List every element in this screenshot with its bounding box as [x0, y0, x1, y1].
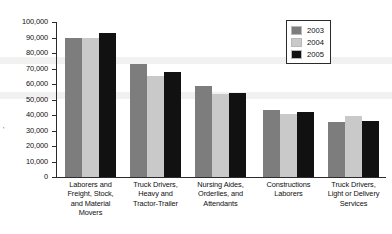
bar: [164, 72, 181, 177]
x-axis-category-label: Nursing Aides,Orderlies, andAttendants: [185, 180, 257, 208]
x-axis-label-line: Services: [318, 199, 390, 208]
x-axis-line: [56, 177, 386, 178]
y-axis-tick-label: 60,000: [26, 80, 48, 88]
scan-artifact: ': [3, 126, 4, 133]
bar: [229, 93, 246, 177]
x-axis-label-line: and Material: [55, 199, 127, 208]
legend-label: 2004: [307, 38, 324, 47]
x-axis-label-line: Truck Drivers,: [120, 180, 192, 189]
bar-group: [195, 22, 246, 177]
y-axis-tick-label: 80,000: [26, 49, 48, 57]
bar: [328, 122, 345, 177]
x-axis-label-line: Laborers: [253, 189, 325, 198]
y-axis-tick-label: 10,000: [26, 158, 48, 166]
bar: [212, 94, 229, 177]
x-axis-label-line: Light or Delivery: [318, 189, 390, 198]
bar: [297, 112, 314, 177]
y-axis-tick-label: 30,000: [26, 127, 48, 135]
x-axis-label-line: Freight, Stock,: [55, 189, 127, 198]
x-axis-label-line: Truck Drivers,: [318, 180, 390, 189]
y-axis-tick-label: 100,000: [22, 18, 48, 26]
x-axis-category-label: Laborers andFreight, Stock,and MaterialM…: [55, 180, 127, 218]
bar: [362, 121, 379, 177]
legend-swatch-icon: [291, 26, 302, 35]
x-axis-label-line: Heavy and: [120, 189, 192, 198]
bar: [82, 38, 99, 178]
x-axis-label-line: Movers: [55, 208, 127, 217]
bar: [99, 33, 116, 177]
plot-area: [56, 22, 384, 177]
bar-group: [328, 22, 379, 177]
bar: [263, 110, 280, 177]
x-axis-label-line: Tractor-Trailer: [120, 199, 192, 208]
x-axis-category-label: ConstructionsLaborers: [253, 180, 325, 199]
bar: [147, 76, 164, 177]
x-axis-category-label: Truck Drivers,Light or DeliveryServices: [318, 180, 390, 208]
x-axis-label-line: Constructions: [253, 180, 325, 189]
legend-swatch-icon: [291, 50, 302, 59]
bar: [195, 86, 212, 177]
bar-chart: ' 010,00020,00030,00040,00050,00060,0007…: [0, 0, 392, 234]
x-axis-label-line: Orderlies, and: [185, 189, 257, 198]
y-axis-tick: [52, 177, 57, 178]
bar-group: [130, 22, 181, 177]
bar: [130, 64, 147, 177]
x-axis-label-line: Nursing Aides,: [185, 180, 257, 189]
bar: [280, 114, 297, 177]
legend-swatch-icon: [291, 38, 302, 47]
legend-label: 2005: [307, 50, 324, 59]
y-axis-tick-label: 70,000: [26, 65, 48, 73]
bar: [345, 116, 362, 177]
x-axis-category-label: Truck Drivers,Heavy andTractor-Trailer: [120, 180, 192, 208]
y-axis-tick-label: 0: [44, 173, 48, 181]
legend: 200320042005: [286, 20, 331, 64]
y-axis-tick-label: 50,000: [26, 96, 48, 104]
y-axis-tick-label: 90,000: [26, 34, 48, 42]
bar-group: [65, 22, 116, 177]
legend-item: 2004: [291, 36, 324, 48]
y-axis-tick-label: 20,000: [26, 142, 48, 150]
x-axis-label-line: Attendants: [185, 199, 257, 208]
bar: [65, 38, 82, 178]
legend-label: 2003: [307, 26, 324, 35]
x-axis-label-line: Laborers and: [55, 180, 127, 189]
y-axis-tick-label: 40,000: [26, 111, 48, 119]
legend-item: 2005: [291, 48, 324, 60]
legend-item: 2003: [291, 24, 324, 36]
